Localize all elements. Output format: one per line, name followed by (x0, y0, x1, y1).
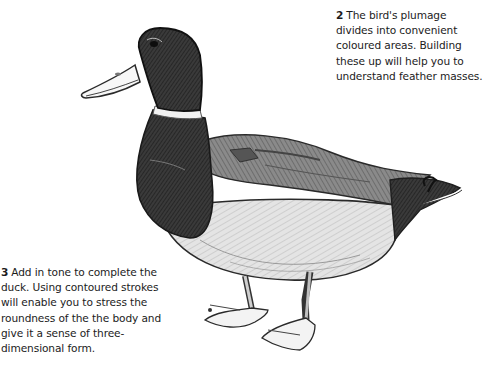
caption-number: 3 (1, 266, 8, 278)
duck-tail (390, 177, 462, 240)
duck-leg-left (205, 276, 268, 327)
duck-bill (82, 65, 140, 98)
book-page: 2The bird's plumage divides into conveni… (0, 0, 485, 371)
caption-text: The bird's plumage divides into convenie… (336, 9, 483, 82)
caption-step-3: 3Add in tone to complete the duck. Using… (1, 265, 176, 356)
caption-text: Add in tone to complete the duck. Using … (1, 266, 161, 354)
duck-breast (137, 110, 213, 238)
duck-head (139, 28, 202, 111)
duck-leg-right (262, 272, 315, 350)
caption-step-2: 2The bird's plumage divides into conveni… (336, 8, 485, 84)
duck-eye (150, 41, 158, 47)
caption-number: 2 (336, 9, 343, 21)
